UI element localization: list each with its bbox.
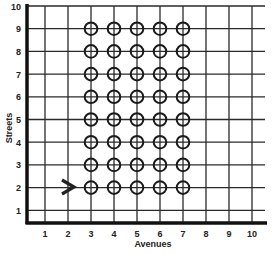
- y-axis-tick-labels: 12345678910: [11, 2, 21, 216]
- avenue-tick-label: 4: [111, 229, 116, 239]
- street-tick-label: 2: [16, 183, 21, 193]
- x-axis-title: Avenues: [134, 239, 171, 249]
- street-tick-label: 3: [16, 160, 21, 170]
- street-tick-label: 7: [16, 70, 21, 80]
- x-axis-tick-labels: 12345678910: [42, 229, 257, 239]
- street-tick-label: 1: [16, 206, 21, 216]
- street-tick-label: 8: [16, 47, 21, 57]
- axes: [26, 4, 268, 224]
- avenue-tick-label: 1: [42, 229, 47, 239]
- avenue-tick-label: 6: [157, 229, 162, 239]
- y-axis-title: Streets: [4, 113, 14, 144]
- avenue-tick-label: 5: [134, 229, 139, 239]
- avenue-tick-label: 9: [226, 229, 231, 239]
- avenue-tick-label: 2: [65, 229, 70, 239]
- street-tick-label: 6: [16, 92, 21, 102]
- avenue-tick-label: 10: [247, 229, 257, 239]
- street-tick-label: 10: [11, 2, 21, 12]
- avenue-tick-label: 7: [180, 229, 185, 239]
- street-tick-label: 9: [16, 24, 21, 34]
- grid-lines: [27, 6, 265, 223]
- avenue-tick-label: 8: [203, 229, 208, 239]
- street-grid-diagram: 12345678910 12345678910 Avenues Streets: [0, 0, 273, 254]
- street-tick-label: 5: [16, 115, 21, 125]
- street-tick-label: 4: [16, 138, 21, 148]
- avenue-tick-label: 3: [88, 229, 93, 239]
